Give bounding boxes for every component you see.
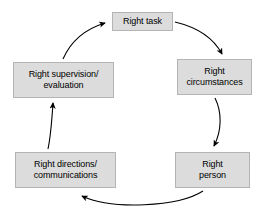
- cycle-diagram: Right task Right circumstances Right per…: [0, 0, 269, 218]
- node-right-task-label: Right task: [123, 16, 162, 27]
- arrow-directions-to-supervision: [48, 103, 53, 149]
- node-right-directions-communications[interactable]: Right directions/ communications: [15, 152, 116, 188]
- arrow-person-to-directions: [82, 191, 203, 205]
- node-right-supervision-evaluation[interactable]: Right supervision/ evaluation: [13, 62, 114, 98]
- arrow-task-to-circumstances: [175, 22, 222, 54]
- arrow-supervision-to-task: [63, 23, 105, 59]
- node-right-task[interactable]: Right task: [112, 12, 173, 31]
- node-right-circumstances-label: Right circumstances: [186, 66, 242, 88]
- node-right-person-label: Right person: [199, 159, 226, 181]
- arrow-circumstances-to-person: [214, 98, 220, 146]
- node-right-circumstances[interactable]: Right circumstances: [177, 59, 252, 95]
- node-right-person[interactable]: Right person: [175, 152, 250, 188]
- node-right-directions-communications-label: Right directions/ communications: [34, 159, 98, 181]
- node-right-supervision-evaluation-label: Right supervision/ evaluation: [29, 69, 99, 91]
